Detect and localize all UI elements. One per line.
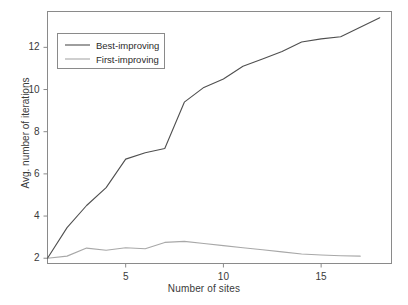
y-tick-label: 8 bbox=[16, 126, 40, 137]
legend-label-first-improving: First-improving bbox=[96, 54, 159, 65]
y-tick-label: 6 bbox=[16, 168, 40, 179]
chart-figure: Best-improving First-improving Number of… bbox=[0, 0, 408, 305]
y-tick-label: 10 bbox=[16, 84, 40, 95]
y-tick-label: 4 bbox=[16, 210, 40, 221]
x-axis-title: Number of sites bbox=[0, 283, 408, 294]
y-tick-label: 2 bbox=[16, 252, 40, 263]
y-tick-label: 12 bbox=[16, 41, 40, 52]
line-chart-plot bbox=[0, 0, 408, 305]
x-tick-label: 10 bbox=[211, 271, 235, 282]
legend-label-best-improving: Best-improving bbox=[96, 40, 159, 51]
x-tick-label: 5 bbox=[114, 271, 138, 282]
x-tick-label: 15 bbox=[309, 271, 333, 282]
